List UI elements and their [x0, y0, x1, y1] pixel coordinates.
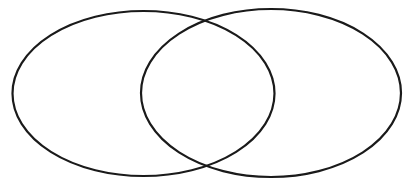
venn-diagram-canvas [0, 0, 412, 184]
venn-diagram-svg [0, 0, 412, 184]
